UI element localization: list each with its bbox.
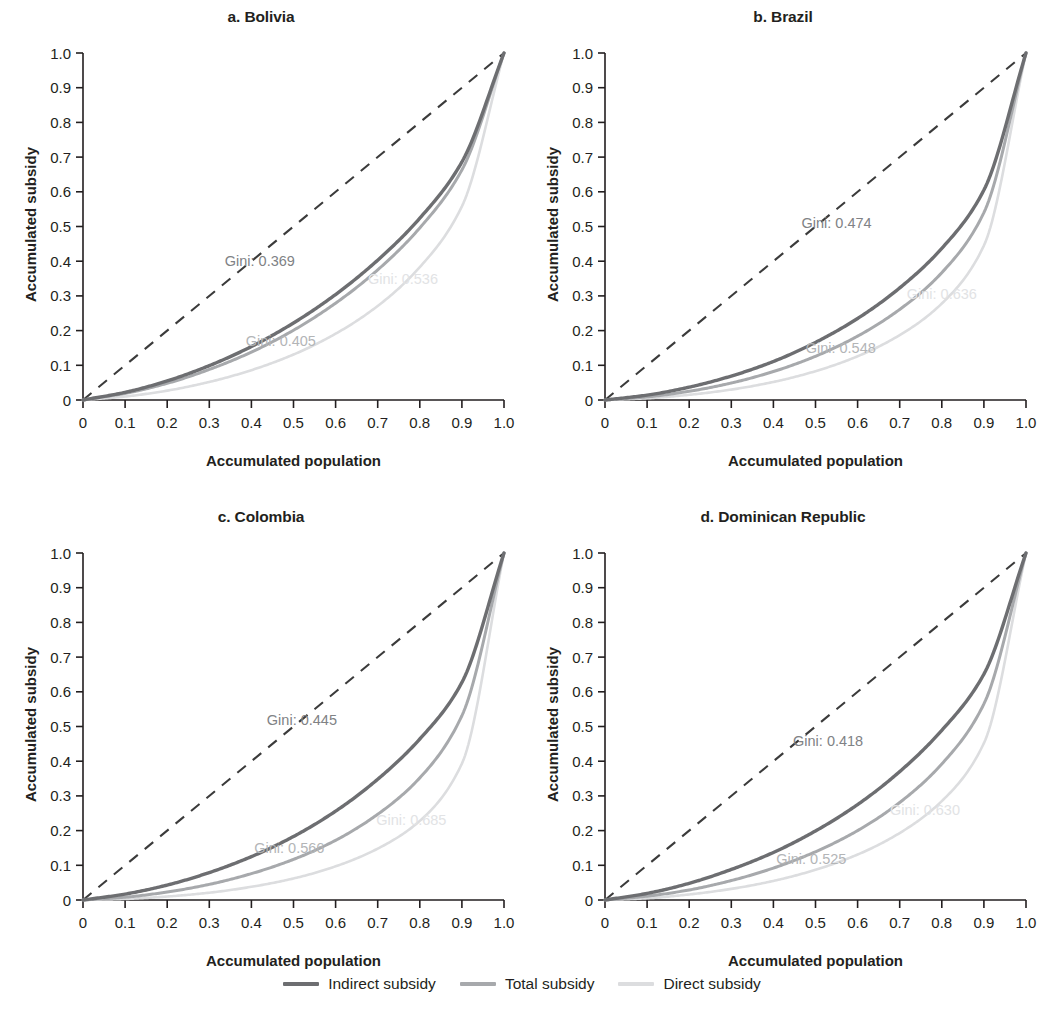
legend-item-direct-subsidy[interactable]: Direct subsidy	[618, 975, 760, 993]
x-axis-label: Accumulated population	[83, 952, 504, 969]
x-tick-label: 0.1	[637, 414, 658, 431]
gini-label-direct-subsidy: Gini: 0.536	[368, 271, 438, 287]
legend-item-indirect-subsidy[interactable]: Indirect subsidy	[283, 975, 436, 993]
legend-swatch-icon	[283, 982, 319, 986]
y-tick-label: 0.5	[50, 718, 71, 735]
y-tick-label: 0.2	[50, 322, 71, 339]
x-tick-label: 0	[79, 414, 87, 431]
y-tick-label: 0.2	[572, 322, 593, 339]
y-axis-label: Accumulated subsidy	[22, 646, 39, 801]
y-tick-label: 0.3	[50, 287, 71, 304]
gini-label-total-subsidy: Gini: 0.548	[806, 340, 876, 356]
x-tick-label: 0	[601, 914, 609, 931]
x-tick-label: 0.1	[637, 914, 658, 931]
gini-label-indirect-subsidy: Gini: 0.369	[225, 253, 295, 269]
y-tick-label: 1.0	[50, 545, 71, 562]
y-tick-label: 0	[585, 892, 593, 909]
x-axis-label: Accumulated population	[605, 952, 1026, 969]
y-tick-label: 0.5	[572, 718, 593, 735]
y-tick-label: 0.3	[572, 787, 593, 804]
x-tick-label: 1.0	[1016, 414, 1037, 431]
y-tick-label: 0.6	[50, 183, 71, 200]
x-tick-label: 0.9	[451, 414, 472, 431]
y-tick-label: 0.8	[572, 114, 593, 131]
y-tick-label: 0.9	[572, 79, 593, 96]
y-tick-label: 0.3	[572, 287, 593, 304]
x-tick-label: 0.9	[451, 914, 472, 931]
panel-4: d. Dominican Republic00.10.20.30.40.50.6…	[522, 500, 1044, 970]
x-tick-label: 0.9	[973, 414, 994, 431]
gini-label-direct-subsidy: Gini: 0.630	[890, 802, 960, 818]
gini-label-indirect-subsidy: Gini: 0.445	[267, 712, 337, 728]
y-tick-label: 0.1	[572, 357, 593, 374]
x-axis-label: Accumulated population	[83, 452, 504, 469]
y-tick-label: 0.9	[50, 579, 71, 596]
legend-item-total-subsidy[interactable]: Total subsidy	[460, 975, 595, 993]
gini-label-indirect-subsidy: Gini: 0.418	[793, 733, 863, 749]
y-tick-label: 1.0	[50, 45, 71, 62]
y-tick-label: 0.9	[572, 579, 593, 596]
y-tick-label: 0.6	[50, 683, 71, 700]
plot-area: 00.10.20.30.40.50.60.70.80.91.000.10.20.…	[0, 500, 522, 940]
panel-1: a. Bolivia00.10.20.30.40.50.60.70.80.91.…	[0, 0, 522, 500]
x-tick-label: 0.2	[157, 914, 178, 931]
x-tick-label: 0.7	[889, 914, 910, 931]
legend-label: Total subsidy	[505, 975, 595, 993]
x-tick-label: 0.7	[889, 414, 910, 431]
plot-area: 00.10.20.30.40.50.60.70.80.91.000.10.20.…	[522, 0, 1044, 440]
panel-3: c. Colombia00.10.20.30.40.50.60.70.80.91…	[0, 500, 522, 970]
y-tick-label: 0.4	[572, 253, 593, 270]
y-tick-label: 1.0	[572, 45, 593, 62]
y-tick-label: 0.7	[572, 149, 593, 166]
x-tick-label: 0.3	[199, 414, 220, 431]
x-tick-label: 0	[79, 914, 87, 931]
gini-label-total-subsidy: Gini: 0.566	[254, 840, 324, 856]
x-axis-label: Accumulated population	[605, 452, 1026, 469]
x-tick-label: 0.8	[409, 914, 430, 931]
x-tick-label: 0.2	[157, 414, 178, 431]
y-tick-label: 0.8	[572, 614, 593, 631]
gini-label-total-subsidy: Gini: 0.525	[776, 851, 846, 867]
x-tick-label: 0.3	[199, 914, 220, 931]
y-tick-label: 0.8	[50, 114, 71, 131]
x-tick-label: 0.2	[679, 914, 700, 931]
x-tick-label: 1.0	[1016, 914, 1037, 931]
y-tick-label: 0.2	[572, 822, 593, 839]
y-tick-label: 0	[63, 392, 71, 409]
line-of-equality	[605, 553, 1026, 900]
x-tick-label: 0.5	[283, 414, 304, 431]
x-tick-label: 0.8	[931, 914, 952, 931]
x-tick-label: 0.5	[805, 914, 826, 931]
x-tick-label: 0.7	[367, 414, 388, 431]
x-tick-label: 0.6	[847, 414, 868, 431]
x-tick-label: 0.5	[805, 414, 826, 431]
y-tick-label: 1.0	[572, 545, 593, 562]
x-tick-label: 0.6	[847, 914, 868, 931]
y-axis-label: Accumulated subsidy	[22, 146, 39, 301]
y-tick-label: 0.5	[50, 218, 71, 235]
y-tick-label: 0.6	[572, 683, 593, 700]
x-tick-label: 0.1	[115, 414, 136, 431]
x-tick-label: 0.2	[679, 414, 700, 431]
y-tick-label: 0.1	[50, 857, 71, 874]
lorenz-curves-figure: a. Bolivia00.10.20.30.40.50.60.70.80.91.…	[0, 0, 1044, 1013]
x-tick-label: 0.4	[763, 414, 784, 431]
x-tick-label: 0.5	[283, 914, 304, 931]
y-tick-label: 0	[63, 892, 71, 909]
y-tick-label: 0.4	[50, 753, 71, 770]
y-tick-label: 0.7	[572, 649, 593, 666]
legend-label: Direct subsidy	[663, 975, 760, 993]
gini-label-indirect-subsidy: Gini: 0.474	[801, 215, 871, 231]
plot-area: 00.10.20.30.40.50.60.70.80.91.000.10.20.…	[522, 500, 1044, 940]
x-tick-label: 0.7	[367, 914, 388, 931]
legend-swatch-icon	[618, 982, 654, 986]
y-tick-label: 0.7	[50, 149, 71, 166]
chart-legend: Indirect subsidyTotal subsidyDirect subs…	[0, 975, 1044, 993]
y-tick-label: 0.5	[572, 218, 593, 235]
gini-label-direct-subsidy: Gini: 0.636	[907, 286, 977, 302]
x-tick-label: 0.6	[325, 414, 346, 431]
x-tick-label: 1.0	[494, 414, 515, 431]
y-tick-label: 0.9	[50, 79, 71, 96]
legend-label: Indirect subsidy	[328, 975, 436, 993]
gini-label-total-subsidy: Gini: 0.405	[246, 333, 316, 349]
